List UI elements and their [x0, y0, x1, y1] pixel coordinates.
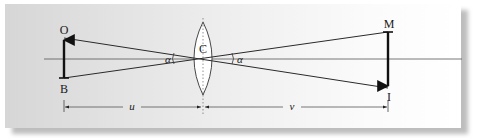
label-object-bottom: B: [60, 82, 68, 96]
label-angle-right: α: [237, 53, 243, 65]
label-image-distance: v: [290, 100, 295, 112]
label-image-bottom: I: [387, 90, 391, 104]
label-object-top: O: [60, 23, 69, 37]
label-image-top: M: [384, 17, 395, 31]
angle-arc-right: [232, 53, 234, 64]
label-lens-center: C: [199, 42, 207, 56]
label-object-distance: u: [129, 100, 135, 112]
label-angle-left: α: [165, 53, 171, 65]
ray-object-bottom-to-image-top: [64, 32, 388, 78]
lens-ray-diagram: O B C M I α α u v: [0, 0, 477, 138]
ray-object-top-to-image-bottom: [64, 38, 388, 88]
